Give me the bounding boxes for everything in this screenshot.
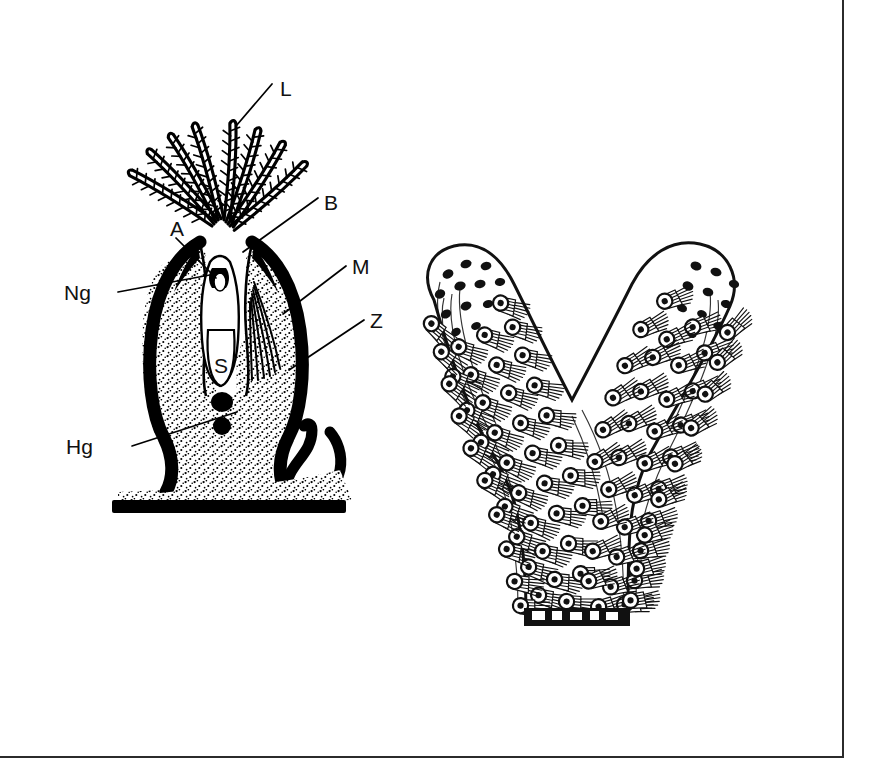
label-A: A	[170, 218, 184, 239]
label-M: M	[352, 256, 370, 277]
label-B: B	[324, 192, 338, 213]
figure-zooid-section: L B A Ng M Z S Hg	[40, 30, 400, 570]
plate-frame-bottom-border	[0, 756, 844, 758]
figure-colony-branch	[400, 230, 790, 650]
leader-L	[236, 84, 272, 126]
plate-frame-right-border	[842, 0, 844, 758]
label-L: L	[280, 78, 292, 99]
illustration-plate: L B A Ng M Z S Hg	[0, 0, 872, 782]
colony-broken-base	[524, 608, 630, 626]
label-Z: Z	[370, 310, 383, 331]
label-Ng: Ng	[64, 282, 91, 303]
label-S: S	[214, 355, 228, 376]
label-Hg: Hg	[66, 436, 93, 457]
dark-body-upper	[211, 392, 233, 412]
